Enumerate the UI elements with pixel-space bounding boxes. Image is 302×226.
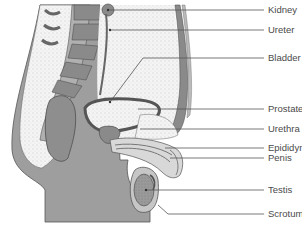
label-prostate-gland: Prostate gland	[268, 103, 302, 114]
label-penis: Penis	[268, 152, 292, 163]
label-scrotum: Scrotum	[268, 208, 302, 219]
anatomy-diagram	[0, 0, 302, 226]
leader-scrotum	[158, 205, 264, 214]
label-kidney: Kidney	[268, 4, 297, 15]
label-ureter: Ureter	[268, 24, 294, 35]
label-bladder: Bladder	[268, 52, 301, 63]
label-urethra: Urethra	[268, 123, 300, 134]
label-testis: Testis	[268, 184, 292, 195]
